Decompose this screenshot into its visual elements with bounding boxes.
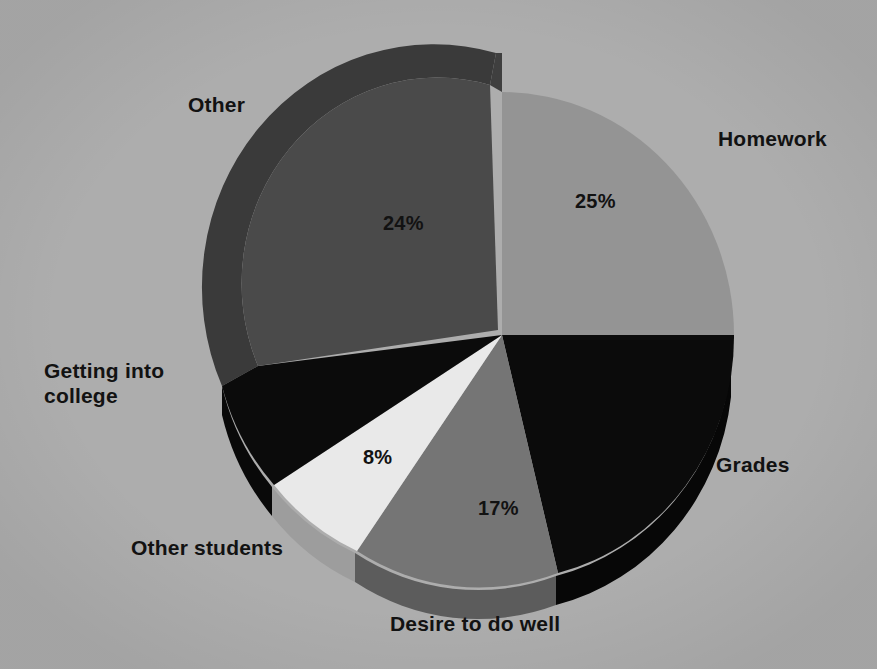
label-homework: Homework xyxy=(718,126,827,151)
label-getting-into-college-line1: Getting into xyxy=(44,358,164,383)
label-grades: Grades xyxy=(716,452,790,477)
value-label-other-students: 8% xyxy=(363,446,392,469)
label-other: Other xyxy=(188,92,245,117)
pie-chart-figure: Other Homework Getting into college Grad… xyxy=(0,0,877,669)
vignette-overlay xyxy=(0,0,877,669)
pie-chart-graphic xyxy=(0,0,877,669)
value-label-desire-to-do-well: 17% xyxy=(478,497,519,520)
label-getting-into-college-line2: college xyxy=(44,383,118,408)
label-other-students: Other students xyxy=(131,535,283,560)
value-label-homework: 25% xyxy=(575,190,616,213)
label-desire-to-do-well: Desire to do well xyxy=(390,611,560,636)
value-label-other: 24% xyxy=(383,212,424,235)
